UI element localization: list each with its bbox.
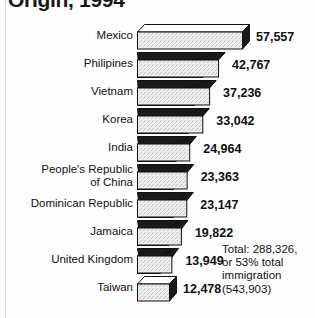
bar-row: Jamaica19,822 [0,218,315,244]
bar-row: Mexico57,557 [0,22,315,48]
immigration-bar-chart: Origin, 1994 Mexico57,557Philipines42,76… [0,0,315,318]
bar-value-label: 12,478 [183,282,221,296]
bar-value-label: 23,147 [200,198,238,212]
bar-value-label: 24,964 [203,142,241,156]
category-label: Mexico [0,29,133,42]
bar-row: Dominican Republic23,147 [0,190,315,216]
bar-3d [137,52,227,78]
bar-value-label: 42,767 [232,58,270,72]
bar-row: Korea33,042 [0,106,315,132]
category-label: Vietnam [0,85,133,98]
bar-value-label: 23,363 [201,170,239,184]
bar-3d [137,24,251,50]
bar-value-label: 19,822 [195,226,233,240]
bar-row: People's Republicof China23,363 [0,162,315,188]
bar-value-label: 13,949 [185,254,223,268]
bar-3d [137,192,195,218]
category-label: Taiwan [0,281,133,294]
bar-row: Vietnam37,236 [0,78,315,104]
bar-3d [137,276,178,302]
category-label: United Kingdom [0,253,133,266]
bar-3d [137,108,211,134]
chart-title: Origin, 1994 [8,0,125,12]
bar-3d [137,248,180,274]
bar-row: India24,964 [0,134,315,160]
category-label: People's Republicof China [0,163,133,188]
category-label: India [0,141,133,154]
category-label: Dominican Republic [0,197,133,210]
bar-3d [137,164,196,190]
bar-value-label: 33,042 [216,114,254,128]
bar-3d [137,220,190,246]
category-label: Jamaica [0,225,133,238]
bar-3d [137,80,218,106]
bar-value-label: 57,557 [256,30,294,44]
bar-value-label: 37,236 [223,86,261,100]
total-annotation: Total: 288,326,or 53% totalimmigration(5… [222,243,297,296]
bar-3d [137,136,198,162]
category-label: Korea [0,113,133,126]
category-label: Philipines [0,57,133,70]
bar-row: Philipines42,767 [0,50,315,76]
